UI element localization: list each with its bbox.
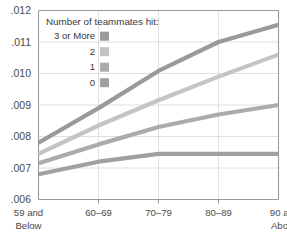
x-axis-tick-label: Below	[15, 220, 41, 231]
legend-swatch	[100, 32, 109, 41]
x-axis-tick-label: 70–79	[145, 207, 172, 218]
y-axis-tick-label: .009	[11, 99, 32, 111]
line-chart: .006.007.008.009.010.011.012 59 andBelow…	[0, 0, 287, 238]
legend-item-label: 3 or More	[54, 30, 95, 41]
legend-title: Number of teammates hit:	[46, 16, 159, 27]
legend-item-label: 0	[90, 77, 95, 88]
y-axis-tick-label: .008	[11, 130, 32, 142]
legend-item-label: 2	[90, 46, 95, 57]
x-axis-tick-label: 90 and	[270, 207, 287, 218]
x-axis-tick-label: 80–89	[205, 207, 232, 218]
y-axis-tick-label: .010	[11, 67, 32, 79]
y-axis-tick-label: .006	[11, 193, 32, 205]
y-axis-tick-label: .007	[11, 162, 32, 174]
chart-canvas: .006.007.008.009.010.011.012 59 andBelow…	[0, 0, 287, 238]
y-axis-tick-label: .012	[11, 4, 32, 16]
x-axis-tick-label: 59 and	[14, 207, 43, 218]
legend-swatch	[100, 63, 109, 72]
legend-item-label: 1	[90, 61, 95, 72]
x-axis-tick-label: 60–69	[85, 207, 112, 218]
legend-swatch	[100, 78, 109, 87]
y-axis-tick-labels: .006.007.008.009.010.011.012	[11, 4, 32, 205]
chart-legend: Number of teammates hit:3 or More210	[46, 16, 159, 88]
x-axis-tick-label: Above	[271, 220, 287, 231]
x-axis-tick-labels: 59 andBelow60–6970–7980–8990 andAbove	[14, 207, 287, 231]
legend-swatch	[100, 47, 109, 56]
y-axis-tick-label: .011	[11, 36, 31, 48]
